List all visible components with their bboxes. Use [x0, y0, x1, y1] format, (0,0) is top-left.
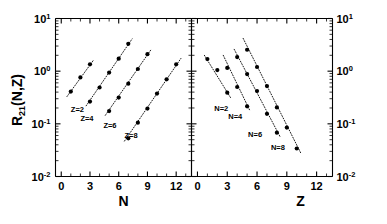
data-point — [215, 68, 219, 72]
series-label-z-4: Z=4 — [80, 114, 94, 123]
data-point — [107, 109, 111, 113]
data-point — [117, 95, 121, 99]
x-tick-label: 0 — [58, 180, 64, 192]
data-point — [245, 48, 249, 52]
data-point — [265, 112, 269, 116]
x-tick-label: 6 — [116, 180, 122, 192]
data-point — [145, 52, 149, 56]
data-point — [126, 136, 130, 140]
data-point — [255, 89, 259, 93]
data-point — [225, 66, 229, 70]
data-point — [136, 121, 140, 125]
y-axis-title: R21(N,Z) — [9, 74, 27, 126]
series-label-n-8: N=8 — [271, 143, 285, 152]
series-label-z-2: Z=2 — [71, 105, 84, 114]
x-tick-label: 12 — [170, 180, 182, 192]
series-label-n-2: N=2 — [214, 104, 228, 113]
x-tick-label: 9 — [144, 180, 150, 192]
data-point — [164, 77, 168, 81]
data-point — [97, 85, 101, 89]
data-point — [88, 62, 92, 66]
data-point — [245, 104, 249, 108]
data-point — [275, 105, 279, 109]
data-point — [174, 62, 178, 66]
x-axis-title-left: N — [118, 193, 128, 209]
x-tick-label: 12 — [310, 180, 322, 192]
data-point — [117, 57, 121, 61]
data-point — [245, 72, 249, 76]
x-tick-label: 0 — [194, 180, 200, 192]
x-axis-title-right: Z — [296, 193, 305, 209]
x-tick-label: 3 — [87, 180, 93, 192]
series-label-n-4: N=4 — [228, 112, 243, 121]
data-point — [295, 146, 299, 150]
series-label-z-6: Z=6 — [103, 121, 116, 130]
data-point — [126, 42, 130, 46]
data-point — [225, 91, 229, 95]
two-panel-scatter-plot: 036912Z=2Z=4Z=6Z=8 036912N=2N=4N=6N=8 10… — [0, 0, 387, 224]
data-point — [88, 99, 92, 103]
data-point — [235, 85, 239, 89]
data-point — [255, 65, 259, 69]
data-point — [155, 92, 159, 96]
data-point — [205, 57, 209, 61]
data-point — [78, 75, 82, 79]
data-point — [285, 125, 289, 129]
data-point — [136, 67, 140, 71]
data-point — [126, 82, 130, 86]
data-point — [145, 106, 149, 110]
x-tick-label: 3 — [224, 180, 230, 192]
data-point — [235, 55, 239, 59]
data-point — [265, 84, 269, 88]
data-point — [107, 70, 111, 74]
x-tick-label: 9 — [284, 180, 290, 192]
figure-container: 036912Z=2Z=4Z=6Z=8 036912N=2N=4N=6N=8 10… — [0, 0, 387, 224]
x-tick-label: 6 — [254, 180, 260, 192]
data-point — [69, 89, 73, 93]
series-label-n-6: N=6 — [248, 130, 262, 139]
data-point — [275, 131, 279, 135]
